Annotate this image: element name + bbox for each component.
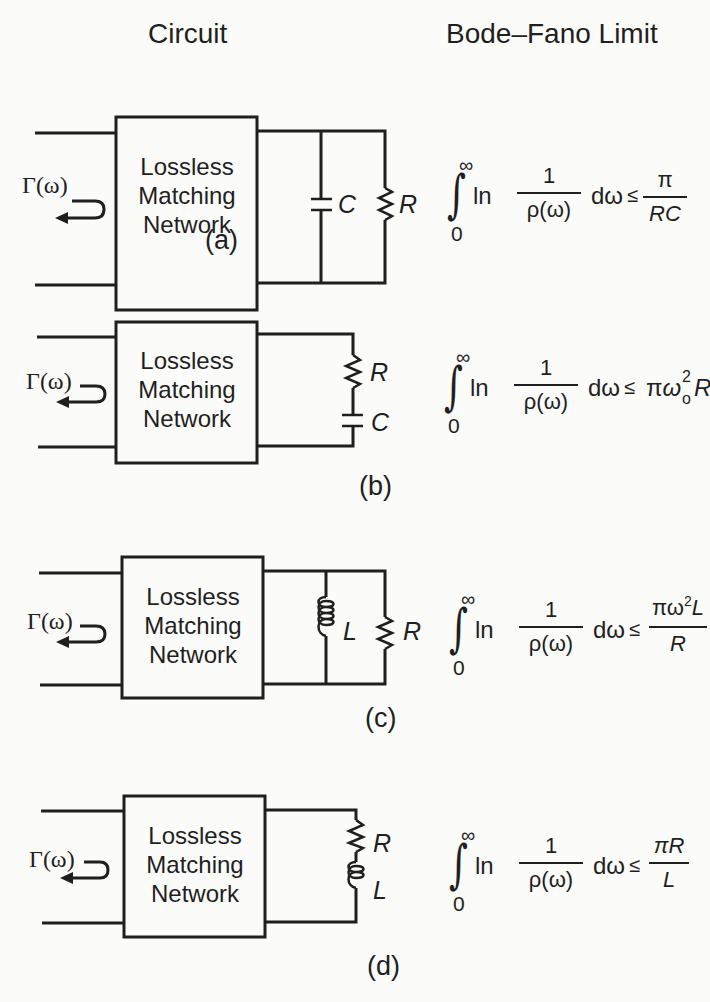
- network-label-c: LosslessMatchingNetwork: [123, 582, 263, 669]
- network-label-d: LosslessMatchingNetwork: [125, 821, 265, 908]
- formula-c: ∫ ∞ 0 ln 1ρ(ω) dω ≤ πω2LR: [449, 594, 707, 694]
- caption-d: (d): [367, 951, 400, 982]
- component-label-d-1: L: [373, 876, 387, 905]
- gamma-label-a: Γ(ω): [22, 172, 68, 199]
- network-label-b: LosslessMatchingNetwork: [117, 346, 257, 433]
- component-label-a-1: R: [399, 190, 417, 219]
- caption-c: (c): [365, 703, 396, 734]
- gamma-label-d: Γ(ω): [29, 846, 75, 873]
- formula-a: ∫ ∞ 0 ln 1ρ(ω) dω ≤ πRC: [447, 160, 707, 260]
- gamma-arrow-icon-c: [56, 636, 69, 648]
- component-label-d-0: R: [373, 829, 391, 858]
- formula-b: ∫ ∞ 0 ln 1ρ(ω) dω ≤ πω 2 o RC: [444, 352, 710, 452]
- formula-d: ∫ ∞ 0 ln 1ρ(ω) dω ≤ πRL: [449, 830, 689, 930]
- component-label-b-1: C: [371, 408, 389, 437]
- gamma-arrow-icon-d: [60, 872, 73, 884]
- gamma-label-c: Γ(ω): [27, 608, 73, 635]
- gamma-label-b: Γ(ω): [26, 368, 72, 395]
- caption-a: (a): [205, 225, 238, 256]
- component-label-c-0: L: [343, 617, 357, 646]
- component-label-b-0: R: [370, 358, 388, 387]
- gamma-arrow-icon-b: [56, 396, 69, 408]
- component-label-a-0: C: [338, 190, 356, 219]
- gamma-arrow-icon-a: [55, 212, 68, 224]
- caption-b: (b): [359, 471, 392, 502]
- component-label-c-1: R: [403, 617, 421, 646]
